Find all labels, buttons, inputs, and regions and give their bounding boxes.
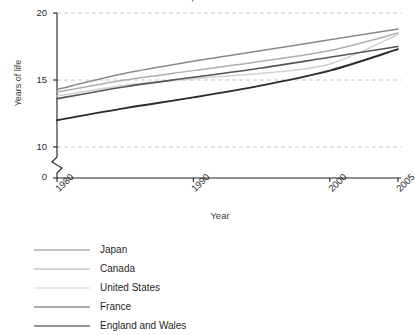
legend-item[interactable]: Japan bbox=[34, 240, 186, 259]
series-line bbox=[57, 33, 398, 92]
chart-legend: JapanCanadaUnited StatesFranceEngland an… bbox=[34, 240, 186, 335]
legend-line-icon bbox=[34, 283, 90, 293]
legend-item[interactable]: United States bbox=[34, 278, 186, 297]
legend-item[interactable]: Canada bbox=[34, 259, 186, 278]
legend-label: United States bbox=[100, 282, 160, 293]
legend-label: Canada bbox=[100, 263, 135, 274]
legend-line-icon bbox=[34, 302, 90, 312]
legend-item[interactable]: France bbox=[34, 297, 186, 316]
legend-line-icon bbox=[34, 321, 90, 331]
legend-label: Japan bbox=[100, 244, 127, 255]
series-line bbox=[57, 49, 398, 120]
legend-line-icon bbox=[34, 245, 90, 255]
legend-item[interactable]: England and Wales bbox=[34, 316, 186, 335]
legend-line-icon bbox=[34, 264, 90, 274]
plot-area bbox=[0, 0, 415, 230]
legend-label: England and Wales bbox=[100, 320, 186, 331]
legend-label: France bbox=[100, 301, 131, 312]
